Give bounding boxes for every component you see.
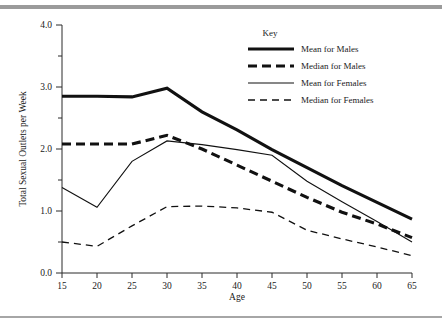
series-line-mean-for-females: [62, 141, 412, 242]
legend-label-median-for-females: Median for Females: [301, 95, 374, 105]
figure-container: 0.01.02.03.04.0 1520253035404550556065 T…: [0, 0, 442, 326]
x-axis-tick-labels: 1520253035404550556065: [57, 281, 417, 291]
y-tick-label-0.0: 0.0: [40, 268, 52, 278]
x-tick-label-65: 65: [407, 281, 417, 291]
y-tick-label-2.0: 2.0: [40, 144, 52, 154]
legend-label-mean-for-males: Mean for Males: [301, 44, 359, 54]
y-axis-title: Total Sexual Outlets per Week: [18, 91, 28, 207]
x-axis-ticks: [62, 273, 412, 278]
y-axis-ticks: [56, 25, 62, 273]
x-tick-label-15: 15: [57, 281, 67, 291]
y-tick-label-4.0: 4.0: [40, 20, 52, 30]
x-tick-label-60: 60: [372, 281, 382, 291]
x-tick-label-45: 45: [267, 281, 277, 291]
y-tick-label-3.0: 3.0: [40, 82, 52, 92]
legend-entries: Mean for MalesMedian for MalesMean for F…: [248, 44, 374, 105]
legend-label-median-for-males: Median for Males: [301, 61, 366, 71]
legend-label-mean-for-females: Mean for Females: [301, 78, 367, 88]
line-chart: 0.01.02.03.04.0 1520253035404550556065 T…: [0, 0, 442, 326]
series-line-median-for-males: [62, 135, 412, 237]
x-tick-label-20: 20: [92, 281, 102, 291]
chart-legend: Key Mean for MalesMedian for MalesMean f…: [248, 28, 374, 105]
series-line-median-for-females: [62, 206, 412, 256]
x-tick-label-35: 35: [197, 281, 207, 291]
y-axis-tick-labels: 0.01.02.03.04.0: [40, 20, 52, 278]
x-tick-label-55: 55: [337, 281, 347, 291]
y-tick-label-1.0: 1.0: [40, 206, 52, 216]
x-axis-title: Age: [229, 292, 245, 302]
x-tick-label-30: 30: [162, 281, 172, 291]
x-tick-label-40: 40: [232, 281, 242, 291]
x-tick-label-50: 50: [302, 281, 312, 291]
series-line-mean-for-males: [62, 88, 412, 219]
data-series-group: [62, 88, 412, 255]
x-tick-label-25: 25: [127, 281, 137, 291]
legend-title: Key: [263, 28, 278, 38]
